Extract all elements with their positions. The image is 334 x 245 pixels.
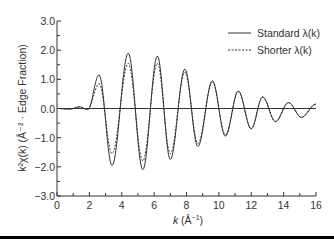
legend-label-shorter: Shorter λ(k): [257, 44, 312, 56]
y-tick-label: 0.0: [40, 103, 55, 115]
x-tick-label: 6: [151, 199, 157, 211]
legend: Standard λ(k) Shorter λ(k): [228, 27, 320, 56]
curves: [57, 53, 316, 170]
y-tick-label: 2.0: [40, 44, 55, 56]
x-tick-label: 4: [119, 199, 125, 211]
exafs-chart: 3.02.01.00.0−1.0−2.0−3.00246810121416 St…: [0, 0, 334, 245]
x-tick-label: 10: [213, 199, 225, 211]
x-tick-label: 0: [54, 199, 60, 211]
y-axis-title: k²χ(k) (Å⁻² · Edge Fraction): [16, 44, 28, 172]
series-standard-line: [57, 53, 316, 170]
y-tick-label: −3.0: [34, 190, 55, 202]
x-tick-label: 12: [245, 199, 257, 211]
y-tick-label: −2.0: [34, 161, 55, 173]
x-tick-label: 8: [184, 199, 190, 211]
y-tick-label: 1.0: [40, 73, 55, 85]
x-tick-label: 14: [278, 199, 290, 211]
y-tick-label: −1.0: [34, 132, 55, 144]
x-axis-title: k (Å−1): [173, 214, 203, 226]
y-tick-label: 3.0: [40, 15, 55, 27]
series-shorter-line: [57, 63, 316, 161]
legend-label-standard: Standard λ(k): [257, 27, 320, 39]
x-tick-label: 16: [310, 199, 322, 211]
x-tick-label: 2: [86, 199, 92, 211]
bottom-rule: [0, 236, 334, 239]
